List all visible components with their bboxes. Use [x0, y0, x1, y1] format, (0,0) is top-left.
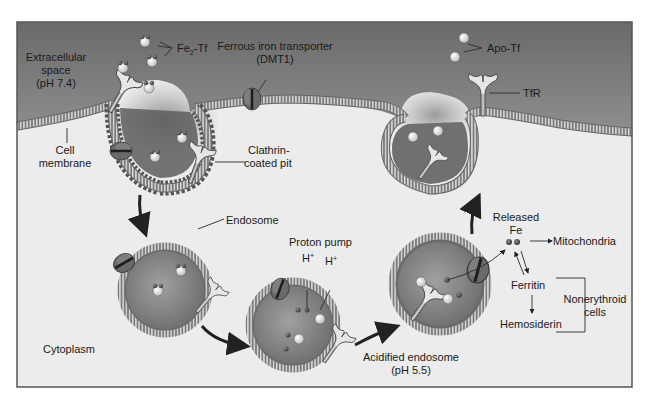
svg-text:cells: cells [584, 306, 607, 318]
svg-text:Ferrous iron transporter: Ferrous iron transporter [217, 40, 333, 52]
label-apo-tf: Apo-Tf [487, 42, 521, 54]
label-endosome: Endosome [226, 214, 279, 226]
svg-text:space: space [41, 64, 70, 76]
label-cytoplasm: Cytoplasm [43, 343, 95, 355]
svg-text:(DMT1): (DMT1) [256, 53, 293, 65]
svg-text:(pH 7.4): (pH 7.4) [36, 77, 76, 89]
released-fe-atom [506, 239, 512, 245]
svg-text:Acidified endosome: Acidified endosome [363, 351, 459, 363]
svg-text:(pH 5.5): (pH 5.5) [391, 364, 431, 376]
svg-text:Nonerythroid: Nonerythroid [564, 293, 627, 305]
svg-text:Clathrin-: Clathrin- [248, 144, 290, 156]
label-tfr: TfR [523, 87, 541, 99]
svg-text:Cell: Cell [56, 144, 75, 156]
svg-text:Released: Released [493, 211, 539, 223]
svg-text:coated pit: coated pit [244, 157, 292, 169]
label-ferritin: Ferritin [511, 279, 545, 291]
label-clathrin-coated-pit: Clathrin- coated pit [244, 144, 292, 169]
svg-text:membrane: membrane [39, 157, 92, 169]
label-hemosiderin: Hemosiderin [500, 318, 562, 330]
label-mitochondria: Mitochondria [553, 235, 617, 247]
transferrin-cycle-diagram: Extracellular space (pH 7.4) Fe2-Tf Ferr… [0, 0, 651, 406]
released-fe-atom [514, 239, 520, 245]
svg-text:Fe: Fe [510, 224, 523, 236]
svg-text:Extracellular: Extracellular [26, 51, 87, 63]
label-proton-pump: Proton pump [289, 236, 352, 248]
